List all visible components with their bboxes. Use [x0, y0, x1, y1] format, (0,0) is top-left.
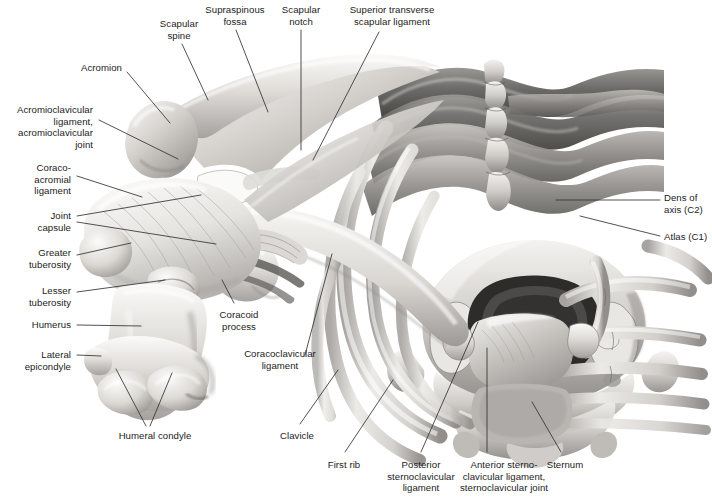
- leader-atlas: [580, 216, 660, 236]
- label-humeral-condyle: Humeral condyle: [104, 430, 206, 442]
- label-dens-of-axis: Dens of axis (C2): [664, 192, 712, 215]
- label-acromion: Acromion: [56, 62, 122, 74]
- leader-scapular-spine: [182, 44, 208, 100]
- label-scapular-notch: Scapular notch: [272, 4, 330, 27]
- label-acromioclavicular-ligament: Acromioclavicular ligament, acromioclavi…: [0, 104, 93, 150]
- label-clavicle: Clavicle: [270, 430, 324, 442]
- label-humerus: Humerus: [12, 319, 71, 331]
- label-lesser-tuberosity: Lesser tuberosity: [3, 285, 71, 308]
- label-joint-capsule: Joint capsule: [16, 210, 71, 233]
- label-sternum: Sternum: [537, 459, 593, 471]
- label-first-rib: First rib: [317, 459, 371, 471]
- label-greater-tuberosity: Greater tuberosity: [3, 247, 71, 270]
- label-coracoid-process: Coracoid process: [208, 309, 270, 332]
- label-atlas: Atlas (C1): [664, 231, 712, 243]
- label-coracoclavicular-ligament: Coracoclavicular ligament: [228, 348, 332, 371]
- label-lateral-epicondyle: Lateral epicondyle: [4, 349, 71, 372]
- label-supraspinous-fossa: Supraspinous fossa: [194, 4, 276, 27]
- anatomy-figure: Scapular spine Supraspinous fossa Scapul…: [0, 0, 712, 499]
- label-superior-transverse-scapular-ligament: Superior transverse scapular ligament: [334, 4, 450, 27]
- anatomy-illustration: [0, 0, 712, 499]
- label-coracoacromial-ligament: Coraco- acromial ligament: [8, 162, 71, 197]
